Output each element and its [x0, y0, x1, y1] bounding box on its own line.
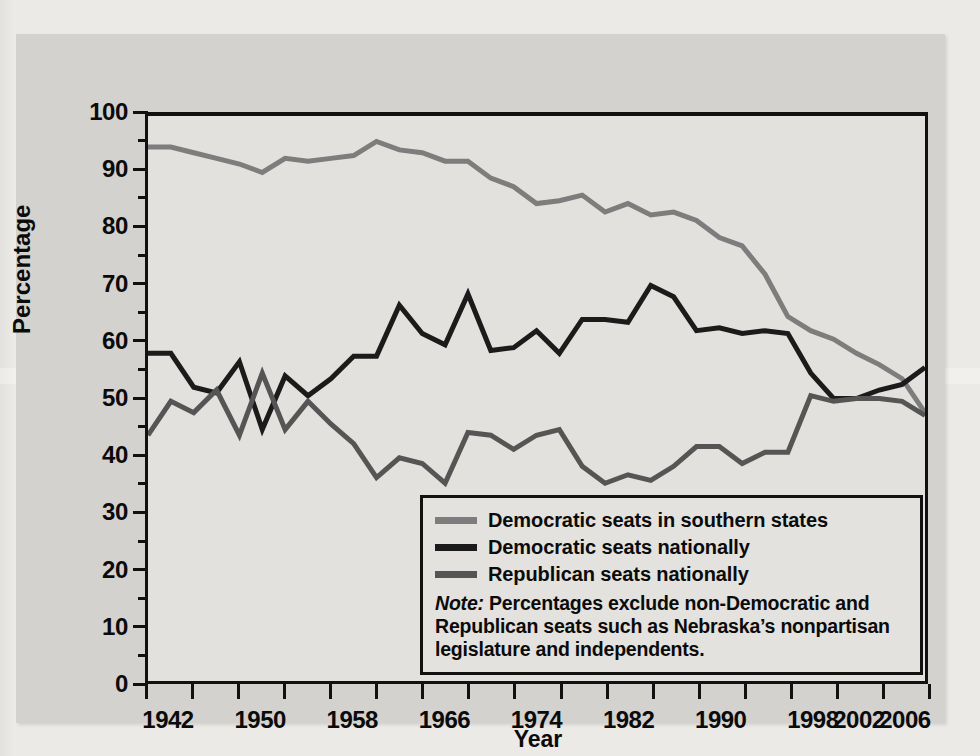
- y-axis: 0102030405060708090100: [70, 94, 148, 704]
- y-axis-tick-label: 40: [102, 443, 128, 467]
- legend-item-southern-democrats: Democratic seats in southern states: [435, 507, 910, 533]
- y-axis-tick-label: 50: [102, 386, 128, 410]
- y-axis-tick-label: 70: [102, 272, 128, 296]
- legend-item-national-republicans: Republican seats nationally: [435, 561, 910, 587]
- y-axis-tick-label: 0: [115, 672, 128, 696]
- x-axis-title: Year: [145, 726, 931, 753]
- x-axis-tick: [790, 684, 793, 699]
- y-axis-title: Percentage: [8, 205, 36, 334]
- x-axis-tick: [744, 684, 747, 699]
- legend-label: Democratic seats nationally: [488, 536, 750, 559]
- x-axis-tick: [145, 684, 148, 699]
- legend-swatch-icon: [435, 571, 477, 578]
- x-axis-tick: [882, 684, 885, 699]
- legend-label: Republican seats nationally: [488, 563, 749, 586]
- x-axis-tick: [329, 684, 332, 699]
- legend-label: Democratic seats in southern states: [488, 509, 828, 532]
- chart-legend: Democratic seats in southern states Demo…: [420, 495, 923, 675]
- x-axis-tick: [421, 684, 424, 699]
- legend-note-prefix: Note:: [435, 592, 484, 614]
- x-axis-tick: [237, 684, 240, 699]
- legend-note-text: Percentages exclude non-Democratic and R…: [435, 592, 890, 660]
- x-axis-tick: [283, 684, 286, 699]
- chart-panel: 0102030405060708090100 Percentage 194219…: [16, 34, 945, 723]
- y-axis-tick-label: 10: [102, 615, 128, 639]
- x-axis-tick: [928, 684, 931, 699]
- x-axis-tick: [606, 684, 609, 699]
- legend-item-national-democrats: Democratic seats nationally: [435, 534, 910, 560]
- x-axis-tick: [513, 684, 516, 699]
- y-axis-tick-label: 60: [102, 329, 128, 353]
- x-axis-tick: [191, 684, 194, 699]
- x-axis-tick: [560, 684, 563, 699]
- y-axis-tick-label: 100: [89, 100, 128, 124]
- y-axis-tick-label: 80: [102, 214, 128, 238]
- x-axis-tick: [836, 684, 839, 699]
- x-axis-tick: [467, 684, 470, 699]
- y-axis-tick-label: 90: [102, 157, 128, 181]
- legend-note: Note: Percentages exclude non-Democratic…: [435, 592, 910, 661]
- x-axis-tick: [652, 684, 655, 699]
- x-axis-tick: [698, 684, 701, 699]
- y-axis-tick-label: 30: [102, 500, 128, 524]
- x-axis-tick: [375, 684, 378, 699]
- y-axis-tick-label: 20: [102, 558, 128, 582]
- legend-swatch-icon: [435, 517, 477, 524]
- figure-page: 0102030405060708090100 Percentage 194219…: [0, 0, 980, 756]
- legend-swatch-icon: [435, 544, 477, 551]
